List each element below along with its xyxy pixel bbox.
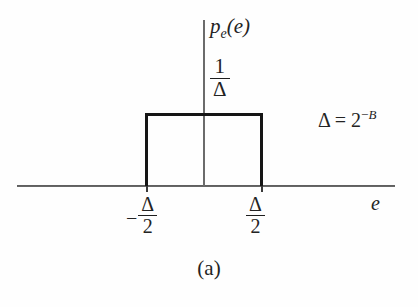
fraction-denominator: 2 (138, 215, 157, 237)
fraction-denominator: 2 (246, 215, 265, 237)
x-tick-positive-half-delta (261, 186, 263, 192)
x-tick-label-negative-half-delta: −Δ2 (126, 194, 157, 237)
delta-exponent-symbol: B (368, 107, 376, 122)
y-axis-label-base: p (210, 14, 221, 38)
fraction-numerator: Δ (138, 194, 157, 215)
figure-container: pe(e) 1Δ Δ = 2−B −Δ2 Δ2 e (a) (0, 0, 418, 307)
delta-definition-annotation: Δ = 2−B (318, 108, 376, 130)
fraction-one-over-delta: 1Δ (210, 56, 230, 101)
fraction-denominator: Δ (210, 78, 230, 101)
fraction-delta-over-two-right: Δ2 (246, 194, 265, 237)
minus-sign: − (126, 208, 138, 228)
x-axis-label: e (371, 193, 380, 213)
y-axis-label: pe(e) (210, 16, 250, 41)
delta-definition-lhs: Δ = 2 (318, 109, 361, 131)
uniform-pdf-rectangle (145, 113, 263, 186)
y-axis-label-argument: (e) (227, 14, 250, 38)
x-tick-label-positive-half-delta: Δ2 (246, 194, 265, 237)
fraction-numerator: 1 (210, 56, 230, 78)
pdf-height-label: 1Δ (210, 56, 230, 101)
fraction-delta-over-two-left: Δ2 (138, 194, 157, 237)
figure-caption: (a) (0, 258, 418, 279)
fraction-numerator: Δ (246, 194, 265, 215)
x-tick-negative-half-delta (146, 186, 148, 192)
